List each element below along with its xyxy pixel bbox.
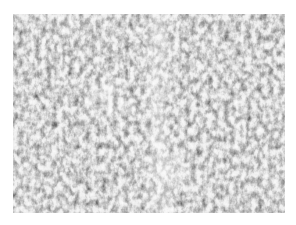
light-patch bbox=[148, 144, 203, 194]
speckle-texture-image: Grayscale speckle texture with a lighter… bbox=[13, 14, 285, 213]
light-patch bbox=[78, 69, 138, 124]
